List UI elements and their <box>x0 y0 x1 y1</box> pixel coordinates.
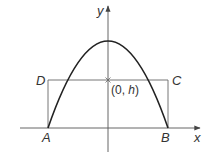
diagram-canvas: y x D C A B (0, h) <box>0 0 211 160</box>
x-axis-label: x <box>193 130 201 145</box>
point-label-a: A <box>41 130 51 145</box>
point-label-c: C <box>172 73 182 88</box>
point-label-d: D <box>36 73 45 88</box>
coord-open: (0, <box>111 83 128 97</box>
point-0-h-label: (0, h) <box>111 83 139 97</box>
point-label-b: B <box>161 130 170 145</box>
coord-close: ) <box>135 83 139 97</box>
y-axis-label: y <box>96 3 105 18</box>
